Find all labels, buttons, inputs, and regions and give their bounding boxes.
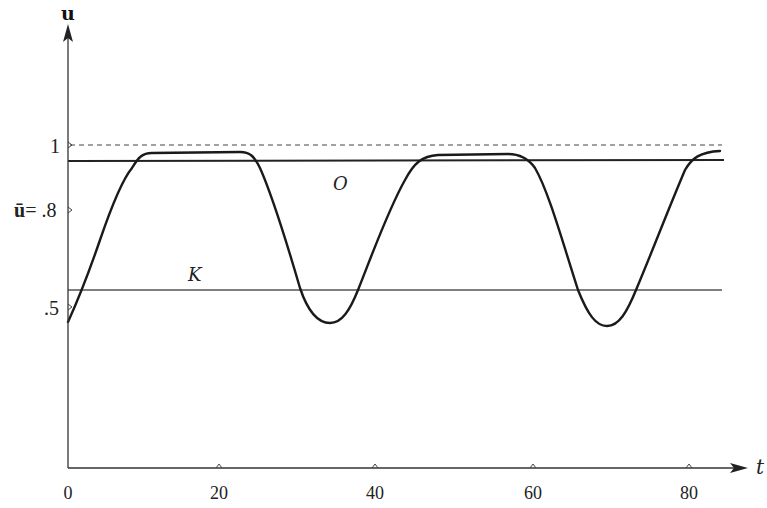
annotation-K: K bbox=[187, 264, 203, 285]
ytick-label-1: 1 bbox=[50, 135, 60, 157]
ytick-label-ubar: ū= .8 bbox=[14, 199, 56, 221]
curve-u-of-t bbox=[68, 151, 720, 326]
xtick-label-60: 60 bbox=[524, 483, 542, 503]
xtick-label-40: 40 bbox=[366, 483, 384, 503]
ubar-symbol: ū bbox=[14, 199, 25, 221]
ytick-label-05: .5 bbox=[44, 297, 59, 319]
xtick-label-20: 20 bbox=[210, 483, 228, 503]
xtick-label-0: 0 bbox=[64, 483, 73, 503]
y-axis-label: u bbox=[61, 2, 75, 24]
line-O bbox=[68, 160, 724, 161]
annotation-O: O bbox=[333, 173, 348, 194]
chart-canvas: u t 1 ū= .8 .5 0 20 40 60 80 O K bbox=[0, 0, 767, 508]
x-axis-label: t bbox=[756, 455, 765, 479]
xtick-label-80: 80 bbox=[680, 483, 698, 503]
ubar-value: = .8 bbox=[25, 199, 56, 221]
